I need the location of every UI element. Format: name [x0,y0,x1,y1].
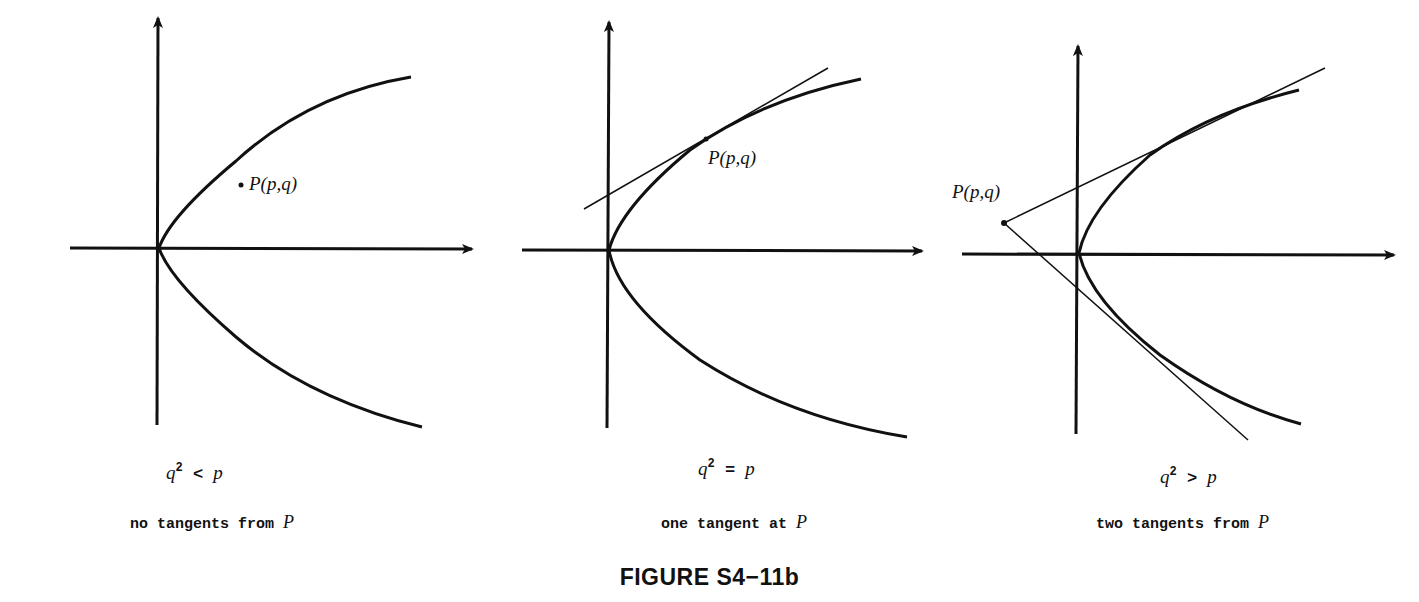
condition-exponent: 2 [1170,465,1177,479]
panel-1-description: no tangents from P [130,512,294,533]
panel-1-point-p [239,183,244,188]
panel-2-description: one tangent at P [661,512,807,533]
panel-1-x-axis [70,248,472,249]
panel-3-diagram [962,46,1394,440]
panel-1-parabola [159,77,422,427]
panel-2-diagram [522,22,922,437]
condition-rhs: p [213,462,223,483]
panel-1-y-axis [157,18,158,425]
description-var: P [1258,512,1269,532]
panel-3-description: two tangents from P [1096,512,1269,533]
description-text: no tangents from [130,516,283,533]
panel-2-parabola [609,79,907,437]
condition-exponent: 2 [176,461,183,475]
panel-3-tangent-upper [1004,68,1325,223]
condition-exponent: 2 [708,457,715,471]
panel-2-point-p [704,137,709,142]
panel-3-x-axis [962,254,1394,255]
panel-3-parabola [1079,90,1301,424]
panel-2-x-axis [522,250,922,251]
panel-2-condition: q2 = p [698,457,755,480]
panel-1-condition: q2 < p [166,461,223,484]
panel-2-point-label: P(p,q) [708,147,756,169]
panel-3-y-axis [1076,46,1078,434]
condition-rhs: p [745,458,755,479]
figure-caption: FIGURE S4−11b [0,564,1419,591]
panel-2-y-axis [607,22,609,428]
panel-1-point-label: P(p,q) [249,173,297,195]
condition-operator: > [1177,469,1208,488]
condition-operator: = [715,461,746,480]
panel-3-point-p [1001,220,1007,226]
condition-rhs: p [1207,466,1217,487]
condition-lhs: q [1160,466,1170,487]
description-text: one tangent at [661,516,796,533]
panel-3-point-label: P(p,q) [952,181,1000,203]
panel-3-condition: q2 > p [1160,465,1217,488]
description-var: P [283,512,294,532]
condition-lhs: q [166,462,176,483]
condition-lhs: q [698,458,708,479]
description-text: two tangents from [1096,516,1258,533]
description-var: P [796,512,807,532]
panel-1-diagram [70,18,472,427]
condition-operator: < [183,465,214,484]
